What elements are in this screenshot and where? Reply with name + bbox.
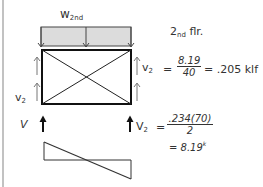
unit-shear-numerator: 8.19 <box>177 55 201 67</box>
reaction-result: = 8.19k <box>169 141 206 153</box>
reaction-lhs-sub: 2 <box>144 126 148 134</box>
floor-label-suffix: flr. <box>186 25 203 38</box>
unit-shear-lhs-sub: 2 <box>149 67 153 75</box>
wall-frame <box>42 50 131 104</box>
unit-shear-denominator: 40 <box>177 67 201 78</box>
reaction-denominator: 2 <box>167 125 213 136</box>
reaction-result-value: = 8.19 <box>169 142 203 153</box>
distributed-load <box>38 27 134 47</box>
reaction-equals: = <box>156 122 165 133</box>
load-label-base: w <box>60 7 70 21</box>
floor-label-sub: nd <box>177 31 186 39</box>
shear-diagram <box>44 142 131 179</box>
load-label-sub: 2nd <box>70 14 83 22</box>
reaction-result-unit: k <box>203 140 206 147</box>
left-shear-arrows <box>34 57 40 101</box>
reaction-fraction: .234(70) 2 <box>167 113 213 136</box>
load-label: w2nd <box>60 8 83 22</box>
left-V-label: V <box>20 119 28 130</box>
reaction-lhs-base: V <box>136 120 144 133</box>
unit-shear-lhs: v2 <box>142 62 153 75</box>
unit-shear-result: = .205 klf <box>204 64 258 75</box>
reaction-arrows <box>40 116 134 133</box>
left-v2-label: v2 <box>15 92 26 105</box>
floor-label-prefix: 2 <box>170 25 177 38</box>
floor-label: 2nd flr. <box>170 26 203 39</box>
reaction-numerator: .234(70) <box>167 113 213 125</box>
unit-shear-fraction: 8.19 40 <box>177 55 201 78</box>
shear-wall-diagram <box>0 0 263 187</box>
reaction-lhs: V2 <box>136 121 148 134</box>
left-v2-sub: 2 <box>22 97 26 105</box>
unit-shear-equals: = <box>163 64 172 75</box>
right-shear-arrows <box>134 57 140 101</box>
